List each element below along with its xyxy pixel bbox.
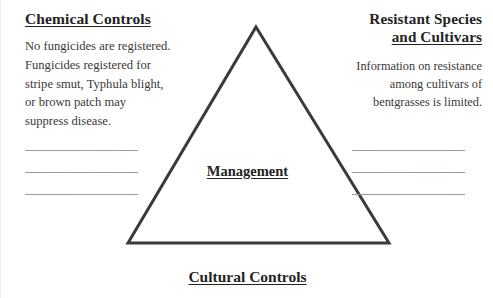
note-line-left-1 (25, 150, 138, 151)
resistant-body-line-1: Information on resistance (292, 57, 482, 75)
cultural-controls-label: Cultural Controls (1, 268, 493, 286)
panel-chemical-controls: Chemical Controls No fungicides are regi… (25, 10, 205, 130)
resistant-species-body: Information on resistance among cultivar… (292, 57, 482, 112)
chemical-controls-heading-text: Chemical Controls (25, 10, 151, 27)
management-center-label-text: Management (207, 163, 288, 179)
resistant-species-heading-line-1: Resistant Species (292, 10, 482, 28)
chemical-body-line-1: No fungicides are registered. (25, 37, 205, 56)
resistant-species-heading: Resistant Species and Cultivars (292, 10, 482, 46)
resistant-body-line-2: among cultivars of (292, 75, 482, 93)
chemical-body-line-4: or brown patch may (25, 93, 205, 112)
resistant-species-heading-line-2: and Cultivars (292, 28, 482, 46)
note-line-right-3 (352, 194, 465, 195)
note-lines-right (352, 150, 465, 216)
note-line-right-1 (352, 150, 465, 151)
note-lines-left (25, 150, 138, 216)
panel-resistant-species-and-cultivars: Resistant Species and Cultivars Informat… (292, 10, 482, 111)
management-center-label: Management (1, 163, 493, 180)
chemical-controls-heading: Chemical Controls (25, 10, 205, 28)
chemical-controls-body: No fungicides are registered. Fungicides… (25, 37, 205, 130)
chemical-body-line-3: stripe smut, Typhula blight, (25, 75, 205, 94)
cultural-controls-label-text: Cultural Controls (188, 268, 306, 285)
note-line-left-3 (25, 194, 138, 195)
chemical-body-line-2: Fungicides registered for (25, 56, 205, 75)
chemical-body-line-5: suppress disease. (25, 112, 205, 131)
resistant-body-line-3: bentgrasses is limited. (292, 93, 482, 111)
diagram-canvas: Chemical Controls No fungicides are regi… (0, 0, 493, 298)
